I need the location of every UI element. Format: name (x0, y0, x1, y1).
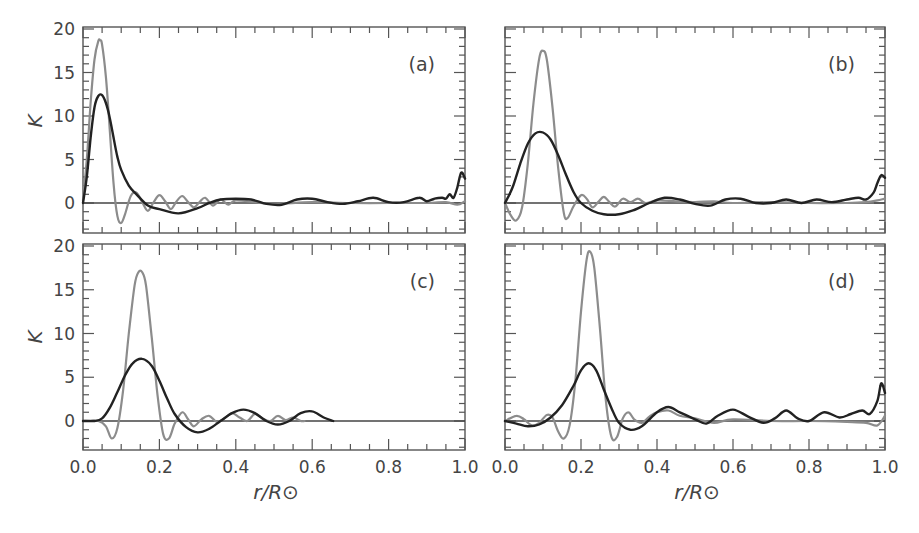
y-tick-label: 0 (64, 411, 75, 431)
y-tick-label: 0 (64, 193, 75, 213)
x-tick-label: 0.6 (719, 457, 746, 477)
panel-label: (c) (410, 270, 435, 292)
x-axis-title-left: r/R⊙ (253, 480, 299, 504)
panel-label: (a) (409, 53, 435, 75)
gray-kernel-curve (505, 51, 885, 221)
panel-d: 0.00.20.40.60.81.0(d) (491, 244, 898, 477)
y-tick-label: 20 (53, 19, 75, 39)
y-tick-label: 10 (53, 106, 75, 126)
y-tick-label: 15 (53, 63, 75, 83)
kernel-figure: 05101520(a) (b) 051015200.00.20.40.60.81… (0, 0, 919, 533)
y-axis-title-bottom: K (23, 329, 47, 344)
y-tick-label: 15 (53, 280, 75, 300)
x-tick-label: 0.2 (567, 457, 594, 477)
x-tick-label: 0.4 (222, 457, 249, 477)
panel-label: (b) (828, 53, 855, 75)
x-tick-label: 0.2 (146, 457, 173, 477)
x-tick-label: 0.0 (491, 457, 518, 477)
x-tick-label: 0.8 (375, 457, 402, 477)
y-tick-label: 10 (53, 324, 75, 344)
panel-c: 051015200.00.20.40.60.81.0(c) (53, 236, 478, 477)
black-kernel-curve (505, 363, 885, 430)
x-axis-title-right: r/R⊙ (674, 480, 720, 504)
x-tick-label: 0.0 (69, 457, 96, 477)
y-axis-title-top: K (23, 113, 47, 128)
y-tick-label: 20 (53, 236, 75, 256)
gray-kernel-curve (83, 271, 305, 440)
panel-a: 05101520(a) (53, 19, 465, 233)
x-tick-label: 1.0 (871, 457, 898, 477)
black-kernel-curve (83, 94, 465, 213)
x-tick-label: 0.4 (643, 457, 670, 477)
y-tick-label: 5 (64, 367, 75, 387)
x-tick-label: 1.0 (451, 457, 478, 477)
x-tick-label: 0.8 (795, 457, 822, 477)
y-tick-label: 5 (64, 150, 75, 170)
panel-label: (d) (828, 270, 855, 292)
panel-b: (b) (505, 27, 885, 233)
x-tick-label: 0.6 (299, 457, 326, 477)
